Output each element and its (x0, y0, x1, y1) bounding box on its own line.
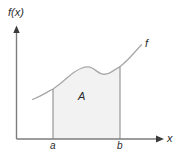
y-axis-arrow-icon (13, 26, 19, 34)
shaded-area-region (53, 67, 120, 139)
y-axis-label: f(x) (8, 7, 24, 18)
upper-bound-label-b: b (117, 141, 123, 151)
area-label-a: A (78, 91, 85, 102)
curve-label-f: f (145, 38, 148, 49)
x-axis-arrow-icon (156, 136, 164, 143)
integral-area-figure (0, 0, 182, 153)
x-axis-label: x (167, 133, 173, 144)
figure-container: f(x) x f A a b (0, 0, 182, 153)
lower-bound-label-a: a (50, 141, 56, 151)
